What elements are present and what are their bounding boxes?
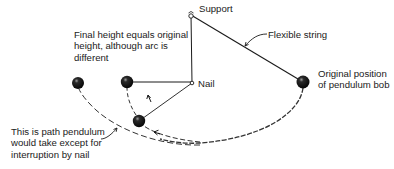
label-support: Support [199,3,233,14]
label-original-position: Original position of pendulum bob [318,68,389,91]
label-final-height-line2: height, although arc is [74,40,188,51]
label-original-position-line2: of pendulum bob [318,79,389,90]
label-uninterrupted-path-line1: This is path pendulum [11,126,105,137]
bob-lowest-position [133,115,145,127]
flexible-string-line [191,15,303,82]
label-flexible-string: Flexible string [268,29,327,40]
direction-arrow-lower-icon [154,130,160,135]
support-pivot-icon [189,14,193,18]
label-uninterrupted-path: This is path pendulum would take except … [11,126,105,160]
interrupted-path-arc [144,126,200,142]
label-final-height-line3: different [74,52,188,63]
label-original-position-line1: Original position [318,68,389,79]
bob-final-position [121,76,133,88]
label-final-height-line1: Final height equals original [74,29,188,40]
pendulum-diagram: Support Flexible string Nail Original po… [0,0,394,169]
bob-uninterrupted-end [72,77,84,89]
final-rise-arc [127,88,136,115]
label-uninterrupted-path-line3: interruption by nail [11,149,105,160]
vertical-reference-line [191,15,192,83]
support-bracket-icon [189,12,194,14]
nail-icon [190,81,194,85]
direction-arrow-upper-icon [147,95,151,102]
label-nail: Nail [198,78,215,89]
label-uninterrupted-path-line2: would take except for [11,137,105,148]
swing-arc-main [160,88,303,143]
string-lowest-position [139,83,192,121]
label-final-height: Final height equals original height, alt… [74,29,188,63]
bob-original-position [297,76,310,89]
